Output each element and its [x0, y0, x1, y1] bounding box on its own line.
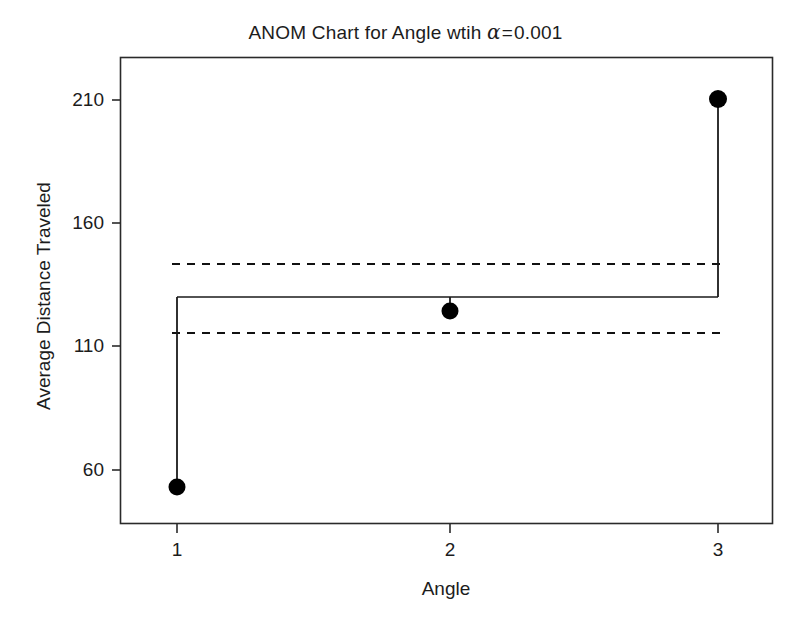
- y-tick-label-210: 210: [34, 89, 104, 111]
- anom-chart-plot: [0, 0, 811, 619]
- data-point-group-3[interactable]: [709, 90, 727, 108]
- x-tick-label-2: 2: [420, 539, 480, 561]
- x-tick-label-3: 3: [688, 539, 748, 561]
- data-point-group-1[interactable]: [169, 479, 186, 496]
- data-point-group-2[interactable]: [442, 303, 459, 320]
- x-axis-title: Angle: [120, 578, 772, 600]
- x-tick-label-1: 1: [147, 539, 207, 561]
- chart-page: ANOM Chart for Angle wtih α=0.001: [0, 0, 811, 619]
- y-axis-title: Average Distance Traveled: [33, 146, 55, 446]
- y-axis-ticks: [112, 100, 121, 470]
- plot-frame: [121, 58, 773, 524]
- x-axis-ticks: [177, 523, 718, 533]
- y-tick-label-60: 60: [34, 459, 104, 481]
